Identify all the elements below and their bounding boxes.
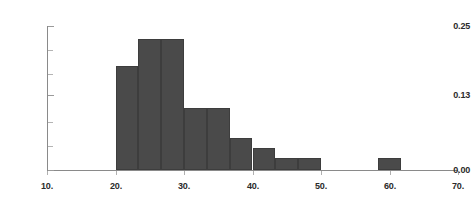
histogram-bar [253,148,276,170]
histogram-bar [184,108,207,170]
histogram-bar [298,158,321,170]
histogram-bar [275,158,298,170]
histogram-bar [138,39,161,170]
histogram-bar [230,138,253,170]
histogram-bar [378,158,401,170]
histogram-bar [161,39,184,170]
histogram-bar [207,108,230,170]
histogram-bar [116,66,139,170]
